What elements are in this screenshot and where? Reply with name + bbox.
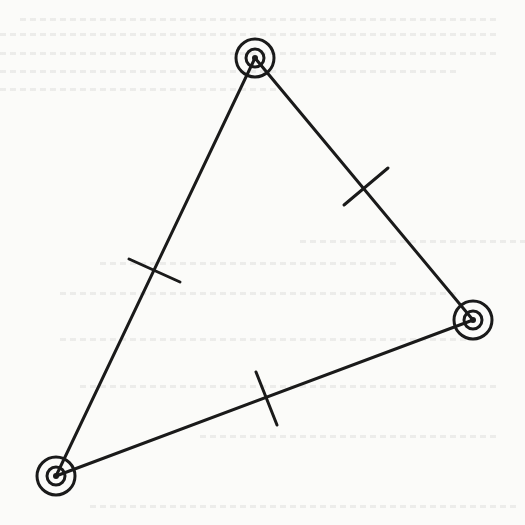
triangle-diagram xyxy=(0,0,525,525)
vertex-markers xyxy=(37,39,492,495)
congruence-tick-marks xyxy=(129,168,388,425)
center-dot xyxy=(252,55,258,61)
vertex-marker-right xyxy=(454,301,492,339)
tick-mark-top-bottom-left xyxy=(129,259,180,282)
triangle-edges xyxy=(56,58,473,476)
vertex-marker-top xyxy=(236,39,274,77)
center-dot xyxy=(53,473,59,479)
center-dot xyxy=(470,317,476,323)
vertex-marker-bottom-left xyxy=(37,457,75,495)
